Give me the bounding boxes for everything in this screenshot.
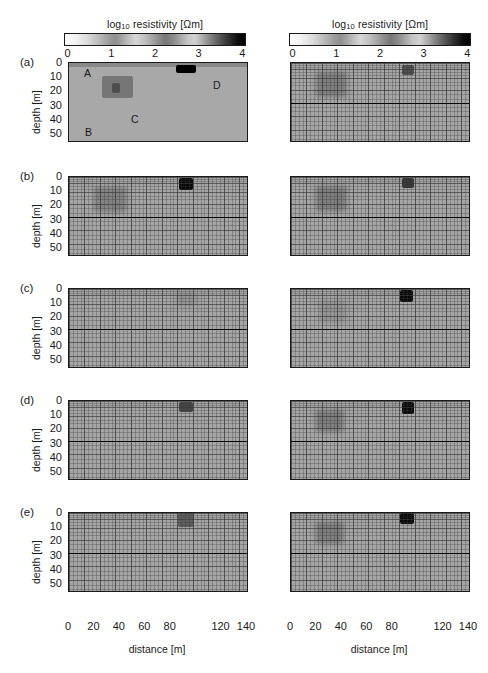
anomaly-diffuse-anomaly — [316, 410, 344, 433]
y-tick-10: 10 — [42, 408, 62, 420]
colorbar-right-tick-1: 1 — [333, 47, 339, 59]
anomaly-faint-anomaly — [319, 300, 347, 323]
plot-c-left — [68, 288, 248, 368]
y-tick-40: 40 — [42, 451, 62, 463]
x-axis-left: 0 20 40 60 80 120 140 — [68, 620, 246, 636]
plot-d-right — [290, 400, 470, 480]
anomaly-core — [112, 83, 120, 93]
colorbar-left-tick-1: 1 — [108, 47, 114, 59]
colorbar-left-tick-4: 4 — [239, 47, 245, 59]
y-tick-0: 0 — [42, 56, 62, 68]
anomaly-diffuse-anomaly — [316, 186, 347, 212]
y-tick-20: 20 — [42, 422, 62, 434]
anomaly-compact-anomaly — [402, 402, 415, 413]
anomaly-diffuse-anomaly — [316, 72, 347, 98]
bedrock-interface-line — [69, 553, 247, 555]
anomaly-compact-anomaly — [400, 513, 414, 524]
y-tick-0: 0 — [42, 506, 62, 518]
x-tick-left-0: 0 — [65, 620, 71, 632]
x-tick-right-3: 60 — [360, 620, 372, 632]
colorbar-right-gradient — [289, 33, 471, 46]
x-axis-label-left: distance [m] — [129, 643, 186, 655]
x-tick-right-0: 0 — [287, 620, 293, 632]
y-tick-50: 50 — [42, 577, 62, 589]
y-tick-30: 30 — [42, 325, 62, 337]
feature-tag-A: A — [84, 67, 91, 79]
x-axis-label-right: distance [m] — [351, 643, 408, 655]
colorbar-right-tick-3: 3 — [421, 47, 427, 59]
y-tick-50: 50 — [42, 241, 62, 253]
y-tick-30: 30 — [42, 437, 62, 449]
x-tick-right-5: 120 — [433, 620, 451, 632]
colorbar-left: log10 resistivity [Ωm] 0 1 2 3 4 — [64, 18, 246, 61]
y-tick-20: 20 — [42, 84, 62, 96]
anomaly-compact-anomaly — [179, 178, 193, 189]
x-axis-right: 0 20 40 60 80 120 140 — [290, 620, 468, 636]
colorbar-left-tick-2: 2 — [152, 47, 158, 59]
plot-a-left — [68, 62, 248, 142]
colorbar-right-title-rest: resistivity [Ωm] — [355, 18, 428, 30]
y-axis-label: depth [m] — [30, 540, 42, 584]
y-tick-40: 40 — [42, 113, 62, 125]
colorbar-left-ticks: 0 1 2 3 4 — [64, 47, 246, 61]
plot-e-left — [68, 512, 248, 592]
y-axis-label: depth [m] — [30, 90, 42, 134]
panel-label-b: (b) — [20, 170, 34, 182]
colorbar-left-tick-3: 3 — [196, 47, 202, 59]
y-tick-10: 10 — [42, 520, 62, 532]
feature-tag-C: C — [131, 113, 139, 125]
y-tick-10: 10 — [42, 70, 62, 82]
colorbar-left-title-sub: 10 — [121, 22, 130, 31]
bedrock-interface-line — [69, 441, 247, 443]
colorbar-right-title-sub: 10 — [346, 22, 355, 31]
y-axis-label: depth [m] — [30, 316, 42, 360]
y-tick-40: 40 — [42, 563, 62, 575]
y-tick-50: 50 — [42, 353, 62, 365]
anomaly-diffuse-anomaly — [94, 187, 127, 213]
x-tick-right-4: 80 — [386, 620, 398, 632]
panel-label-c: (c) — [20, 282, 33, 294]
colorbar-right-tick-0: 0 — [290, 47, 296, 59]
plot-b-right — [290, 176, 470, 256]
x-tick-left-4: 80 — [164, 620, 176, 632]
bedrock-interface-line — [291, 103, 469, 105]
colorbar-left-tick-0: 0 — [65, 47, 71, 59]
y-tick-0: 0 — [42, 282, 62, 294]
anomaly-faint-anomaly — [176, 292, 196, 306]
x-tick-right-2: 40 — [335, 620, 347, 632]
colorbar-right-ticks: 0 1 2 3 4 — [289, 47, 471, 61]
y-tick-30: 30 — [42, 549, 62, 561]
x-tick-right-6: 140 — [459, 620, 477, 632]
anomaly-resistive-block — [176, 65, 196, 73]
x-tick-left-5: 120 — [211, 620, 229, 632]
panel-label-e: (e) — [20, 506, 34, 518]
y-tick-30: 30 — [42, 213, 62, 225]
x-tick-left-6: 140 — [237, 620, 255, 632]
x-tick-right-1: 20 — [309, 620, 321, 632]
anomaly-compact-anomaly — [402, 178, 413, 188]
y-tick-0: 0 — [42, 394, 62, 406]
y-axis-label: depth [m] — [30, 204, 42, 248]
colorbar-left-title: log10 resistivity [Ωm] — [64, 18, 246, 31]
y-tick-20: 20 — [42, 310, 62, 322]
colorbar-right-tick-2: 2 — [377, 47, 383, 59]
y-axis-label: depth [m] — [30, 428, 42, 472]
anomaly-diffuse-anomaly — [316, 522, 344, 545]
anomaly-compact-anomaly — [178, 513, 195, 527]
y-tick-30: 30 — [42, 99, 62, 111]
x-tick-left-3: 60 — [138, 620, 150, 632]
colorbar-left-gradient — [64, 33, 246, 46]
resistivity-figure: log10 resistivity [Ωm] 0 1 2 3 4 log10 r… — [0, 0, 488, 673]
panel-label-d: (d) — [20, 394, 34, 406]
plot-d-left — [68, 400, 248, 480]
y-tick-50: 50 — [42, 465, 62, 477]
feature-tag-B: B — [85, 126, 92, 138]
plot-a-right — [290, 62, 470, 142]
colorbar-left-title-prefix: log — [107, 18, 121, 30]
y-tick-10: 10 — [42, 184, 62, 196]
y-tick-10: 10 — [42, 296, 62, 308]
y-tick-0: 0 — [42, 170, 62, 182]
colorbar-right-tick-4: 4 — [464, 47, 470, 59]
bedrock-interface-line — [291, 441, 469, 443]
x-tick-left-1: 20 — [87, 620, 99, 632]
